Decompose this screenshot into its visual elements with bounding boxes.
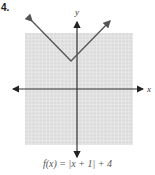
chart-plot: x y xyxy=(0,0,155,175)
x-axis-label: x xyxy=(146,84,151,94)
function-caption: f(x) = |x + 1| + 4 xyxy=(0,158,155,169)
y-axis-label: y xyxy=(74,7,79,17)
graph-figure: 4. x y f(x) = |x + 1| + 4 xyxy=(0,0,155,175)
